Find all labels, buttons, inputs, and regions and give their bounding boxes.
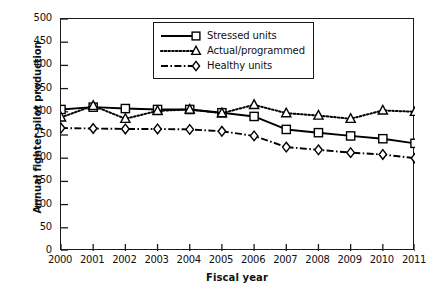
series-actual-programmed (61, 100, 415, 123)
data-point-marker (121, 104, 129, 112)
y-tick-label: 300 (0, 106, 52, 116)
y-tick-label: 0 (0, 245, 52, 255)
y-tick-label: 100 (0, 199, 52, 209)
legend-item: Stressed units (160, 28, 305, 43)
data-point-marker (250, 131, 257, 141)
x-axis-title: Fiscal year (60, 272, 414, 283)
data-point-marker (315, 145, 322, 155)
data-point-marker (347, 148, 354, 158)
data-point-marker (411, 139, 415, 147)
series-healthy-units (61, 123, 415, 163)
data-point-marker (411, 153, 415, 163)
data-point-marker (249, 100, 258, 109)
legend-symbol-diamond-icon (160, 59, 204, 72)
legend-item: Actual/programmed (160, 43, 305, 58)
y-tick-label: 500 (0, 13, 52, 23)
data-point-marker (379, 135, 387, 143)
y-tick-label: 50 (0, 222, 52, 232)
chart-legend: Stressed unitsActual/programmedHealthy u… (153, 22, 314, 79)
y-tick-label: 250 (0, 129, 52, 139)
legend-label: Actual/programmed (207, 45, 305, 56)
y-tick-label: 450 (0, 36, 52, 46)
data-point-marker (61, 123, 65, 133)
data-point-marker (314, 129, 322, 137)
y-tick-label: 400 (0, 59, 52, 69)
legend-label: Stressed units (207, 30, 277, 41)
y-tick-label: 150 (0, 175, 52, 185)
chart-figure: Annual fighter pilot production Fiscal y… (0, 0, 427, 294)
data-point-marker (347, 132, 355, 140)
data-point-marker (283, 142, 290, 152)
legend-item: Healthy units (160, 58, 305, 73)
legend-symbol-square-icon (160, 29, 204, 42)
data-point-marker (122, 124, 129, 134)
data-point-marker (218, 126, 225, 136)
data-point-marker (89, 124, 96, 134)
data-point-marker (282, 125, 290, 133)
legend-label: Healthy units (207, 60, 272, 71)
y-tick-label: 200 (0, 152, 52, 162)
data-point-marker (186, 125, 193, 135)
data-point-marker (379, 150, 386, 160)
x-tick-label: 2011 (391, 255, 427, 265)
legend-symbol-triangle-icon (160, 44, 204, 57)
data-point-marker (154, 124, 161, 134)
y-tick-label: 350 (0, 83, 52, 93)
data-point-marker (250, 112, 258, 120)
